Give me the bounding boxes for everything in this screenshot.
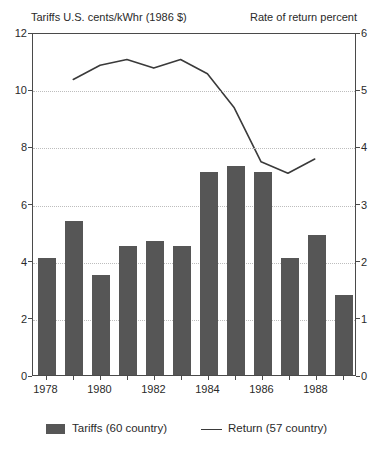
left-tick-label-12: 12: [0, 27, 27, 39]
return-legend-label: Return (57 country): [228, 422, 327, 434]
right-tick-label-4: 4: [361, 141, 383, 153]
return-line: [73, 60, 315, 174]
right-tick-label-3: 3: [361, 199, 383, 211]
left-tick-label-4: 4: [0, 256, 27, 268]
bar-1986: [254, 172, 272, 375]
bar-1983: [173, 246, 191, 375]
left-tick-label-6: 6: [0, 199, 27, 211]
left-tick-mark-8: [28, 147, 32, 148]
left-tick-label-2: 2: [0, 313, 27, 325]
x-tick-mark-1987: [289, 376, 290, 380]
x-tick-mark-1986: [262, 376, 263, 380]
tariffs-legend-label: Tariffs (60 country): [72, 422, 167, 434]
chart: Tariffs U.S. cents/kWhr (1986 $) Rate of…: [0, 0, 383, 452]
bar-1982: [146, 241, 164, 375]
x-tick-mark-1981: [127, 376, 128, 380]
x-tick-mark-1984: [208, 376, 209, 380]
left-tick-mark-6: [28, 204, 32, 205]
right-tick-label-6: 6: [361, 27, 383, 39]
x-tick-mark-1982: [154, 376, 155, 380]
gridline-10: [33, 91, 355, 92]
x-tick-mark-1989: [343, 376, 344, 380]
return-legend-line-swatch: [201, 429, 222, 430]
x-tick-label-1982: 1982: [134, 383, 174, 395]
left-tick-label-8: 8: [0, 141, 27, 153]
x-tick-label-1980: 1980: [80, 383, 120, 395]
x-tick-label-1984: 1984: [188, 383, 228, 395]
bar-1984: [200, 172, 218, 375]
right-tick-label-5: 5: [361, 84, 383, 96]
x-tick-mark-1985: [235, 376, 236, 380]
right-tick-label-1: 1: [361, 313, 383, 325]
bar-1981: [119, 246, 137, 375]
x-tick-label-1988: 1988: [296, 383, 336, 395]
left-tick-label-0: 0: [0, 370, 27, 382]
left-axis-title: Tariffs U.S. cents/kWhr (1986 $): [31, 11, 187, 23]
right-tick-mark-6: [356, 33, 360, 34]
x-tick-label-1978: 1978: [26, 383, 66, 395]
left-tick-mark-0: [28, 376, 32, 377]
plot-area: [32, 33, 356, 376]
bar-1987: [281, 258, 299, 375]
x-tick-label-1986: 1986: [242, 383, 282, 395]
legend: Tariffs (60 country) Return (57 country): [0, 421, 383, 441]
left-tick-mark-10: [28, 90, 32, 91]
x-tick-mark-1979: [73, 376, 74, 380]
x-tick-mark-1988: [316, 376, 317, 380]
gridline-6: [33, 206, 355, 207]
left-tick-mark-12: [28, 33, 32, 34]
x-tick-mark-1983: [181, 376, 182, 380]
tariffs-legend-swatch: [46, 424, 65, 434]
right-tick-mark-5: [356, 90, 360, 91]
right-tick-mark-1: [356, 318, 360, 319]
left-tick-label-10: 10: [0, 84, 27, 96]
right-tick-mark-3: [356, 204, 360, 205]
right-axis-title: Rate of return percent: [250, 11, 357, 23]
right-tick-label-0: 0: [361, 370, 383, 382]
right-tick-mark-0: [356, 376, 360, 377]
bar-1988: [308, 235, 326, 375]
bar-1980: [92, 275, 110, 375]
x-tick-mark-1978: [46, 376, 47, 380]
right-tick-label-2: 2: [361, 256, 383, 268]
bar-1989: [335, 295, 353, 375]
right-tick-mark-2: [356, 261, 360, 262]
bar-1978: [38, 258, 56, 375]
x-tick-mark-1980: [100, 376, 101, 380]
bar-1985: [227, 166, 245, 375]
left-tick-mark-4: [28, 261, 32, 262]
left-tick-mark-2: [28, 318, 32, 319]
bar-1979: [65, 221, 83, 375]
right-tick-mark-4: [356, 147, 360, 148]
gridline-8: [33, 148, 355, 149]
